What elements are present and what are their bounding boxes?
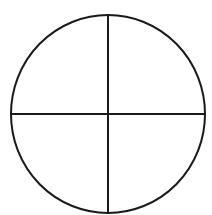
quartered-circle-diagram [0,0,212,215]
